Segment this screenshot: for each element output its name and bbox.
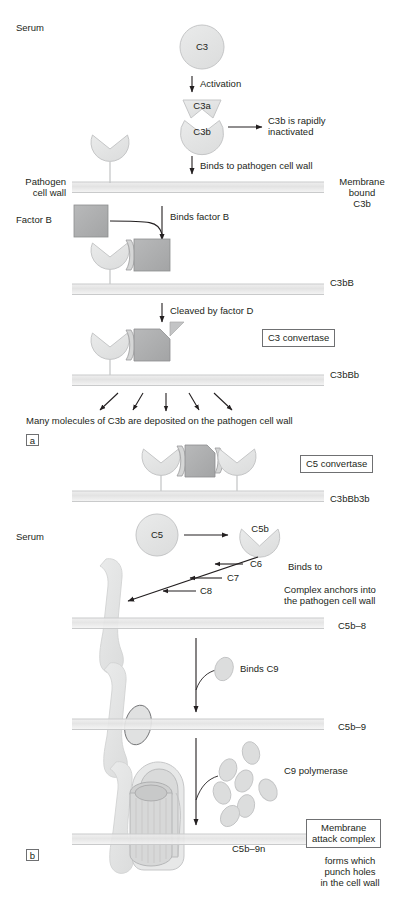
panel-marker-a: a [26,434,39,446]
label-c6: C6 [250,558,262,569]
label-mac-effect: forms which punch holes in the cell wall [306,855,394,888]
label-c3bBb: C3bBb [330,369,359,380]
box-membrane-attack-complex: Membrane attack complex [306,819,381,848]
label-binds-c9: Binds C9 [240,663,279,674]
arrow-fan-c3b-deposition [100,393,232,411]
box-c5-convertase: C5 convertase [300,455,373,473]
label-c3b-inactivated: C3b is rapidly inactivated [268,115,326,137]
label-complex-anchors: Complex anchors into the pathogen cell w… [284,584,376,606]
molecule-c9-single [212,655,237,683]
molecule-factor-b [74,205,108,237]
label-c3b: C3b [182,126,222,137]
label-binds-to: Binds to [288,561,322,572]
anchored-c3b-1 [91,135,129,183]
membrane-bar-3 [72,375,324,386]
factor-b-label: Factor B [16,214,52,225]
membrane-bar-6 [72,719,324,730]
membrane-bar-2 [72,284,324,295]
label-binds-factor-b: Binds factor B [170,211,229,222]
complex-membrane-attack-complex [110,762,184,874]
membrane-bar-4 [72,491,324,502]
pathogen-cell-wall-label: Pathogen cell wall [0,176,66,198]
complex-c3bBb [91,329,170,376]
complex-c3bB [91,239,170,285]
label-cleaved-by-factor-d: Cleaved by factor D [170,305,253,316]
membrane-bar-5 [72,618,324,629]
label-c5b-9n: C5b–9n [232,843,265,854]
molecule-c9-cluster [210,740,281,831]
label-c9-polymerase: C9 polymerase [284,765,348,776]
membrane-bar-1 [72,182,324,193]
label-c3bBb3b: C3bBb3b [330,493,370,504]
label-c5b-9: C5b–9 [338,721,366,732]
label-c5b-8: C5b–8 [338,620,366,631]
label-c5: C5 [137,529,177,540]
arrow-binds-factor-b [110,206,162,240]
label-membrane-bound-c3b: Membrane bound C3b [324,176,400,209]
label-binds-pathogen-wall: Binds to pathogen cell wall [200,160,313,171]
membrane-bar-7 [72,834,324,845]
label-c3a: C3a [182,100,222,111]
arrow-c9-polymerase [196,738,218,825]
panel-marker-b: b [26,849,39,861]
arrow-binds-c9 [196,638,216,712]
label-c7: C7 [227,572,239,583]
label-c8: C8 [200,585,212,596]
complex-c5b-8 [100,559,124,674]
label-c3: C3 [182,41,222,52]
fragment-ba [170,322,184,336]
summary-c3b-deposition: Many molecules of C3b are deposited on t… [26,415,293,426]
label-c5b: C5b [240,523,280,534]
box-c3-convertase: C3 convertase [262,329,335,347]
complex-c5-convertase [142,445,256,492]
serum-label-b: Serum [16,531,44,542]
label-c3bB: C3bB [330,277,354,288]
serum-label-a: Serum [16,22,44,33]
figure-canvas: Serum C3 Activation C3a C3b C3b is rapid… [0,0,400,914]
label-activation: Activation [200,78,241,89]
